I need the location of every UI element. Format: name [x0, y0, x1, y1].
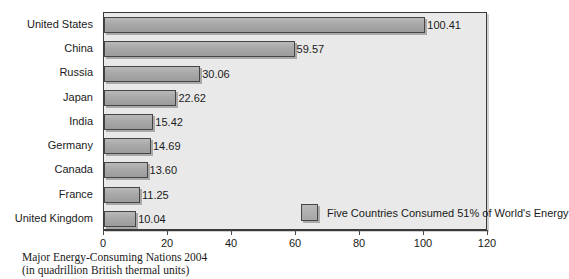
axis-tick-label: 80 [353, 237, 365, 249]
category-label: United Kingdom [0, 206, 98, 230]
axis-tick [103, 230, 104, 235]
bar: 10.04 [104, 211, 136, 227]
bar-row: 13.60 [104, 158, 486, 182]
bar-value-label: 59.57 [297, 44, 325, 55]
bar: 22.62 [104, 90, 176, 106]
bar: 13.60 [104, 162, 148, 178]
category-label: China [0, 36, 98, 60]
bar-value-label: 13.60 [150, 165, 178, 176]
category-label: India [0, 109, 98, 133]
bar-value-label: 14.69 [153, 141, 181, 152]
bar: 14.69 [104, 138, 151, 154]
legend-swatch-icon [301, 204, 318, 221]
axis-tick-label: 100 [414, 237, 432, 249]
category-label: United States [0, 12, 98, 36]
caption-line-1: Major Energy-Consuming Nations 2004 [22, 251, 207, 264]
axis-tick-label: 120 [478, 237, 496, 249]
axis-tick [295, 230, 296, 235]
bar-row: 30.06 [104, 61, 486, 85]
category-label: Germany [0, 133, 98, 157]
bar-value-label: 11.25 [142, 189, 169, 200]
axis-tick-label: 0 [100, 237, 106, 249]
bar-value-label: 15.42 [155, 116, 183, 127]
caption-line-2: (in quadrillion British thermal units) [22, 264, 207, 277]
legend-label: Five Countries Consumed 51% of World's E… [327, 207, 569, 219]
bar-row: 59.57 [104, 37, 486, 61]
chart-caption: Major Energy-Consuming Nations 2004 (in … [22, 251, 207, 277]
bar-row: 14.69 [104, 134, 486, 158]
axis-tick [423, 230, 424, 235]
chart-legend: Five Countries Consumed 51% of World's E… [301, 204, 569, 221]
category-axis-labels: United StatesChinaRussiaJapanIndiaGerman… [0, 12, 98, 230]
axis-tick [167, 230, 168, 235]
bar: 11.25 [104, 187, 140, 203]
bar-value-label: 10.04 [138, 213, 166, 224]
bar-value-label: 30.06 [202, 68, 230, 79]
bar-value-label: 22.62 [178, 92, 206, 103]
bar-value-label: 100.41 [427, 20, 461, 31]
axis-tick-label: 20 [161, 237, 173, 249]
bar-row: 100.41 [104, 13, 486, 37]
bar: 15.42 [104, 114, 153, 130]
axis-tick [231, 230, 232, 235]
plot-area: 100.4159.5730.0622.6215.4214.6913.6011.2… [103, 12, 487, 230]
axis-tick-label: 40 [225, 237, 237, 249]
bar-row: 15.42 [104, 110, 486, 134]
category-label: France [0, 182, 98, 206]
axis-tick [487, 230, 488, 235]
axis-tick [359, 230, 360, 235]
axis-tick-label: 60 [289, 237, 301, 249]
category-label: Russia [0, 60, 98, 84]
bar: 100.41 [104, 17, 425, 33]
bar: 59.57 [104, 41, 295, 57]
category-label: Japan [0, 85, 98, 109]
bar: 30.06 [104, 66, 200, 82]
bar-row: 22.62 [104, 86, 486, 110]
category-label: Canada [0, 157, 98, 181]
